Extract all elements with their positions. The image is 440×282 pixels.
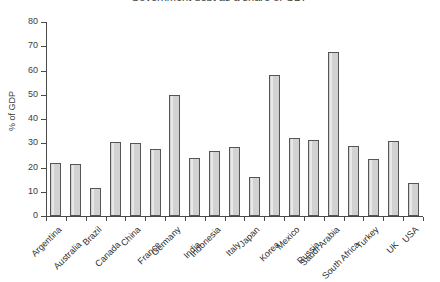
bar (388, 141, 399, 216)
y-axis-tick (41, 119, 46, 120)
x-axis-tick (66, 217, 67, 221)
bar (368, 159, 379, 216)
bar (308, 140, 319, 216)
bar (50, 163, 61, 216)
x-axis-tick (185, 217, 186, 221)
y-axis-tick-label: 50 (12, 90, 38, 99)
x-axis-tick (383, 217, 384, 221)
x-axis-tick (264, 217, 265, 221)
x-axis-tick (423, 217, 424, 221)
y-axis-tick-label: 30 (12, 138, 38, 147)
bar (70, 164, 81, 216)
bar (348, 146, 359, 216)
x-axis-tick (304, 217, 305, 221)
x-axis-tick (344, 217, 345, 221)
y-axis-tick-label: 20 (12, 163, 38, 172)
x-axis-tick (205, 217, 206, 221)
x-axis-tick (324, 217, 325, 221)
y-axis-tick-label: 10 (12, 187, 38, 196)
y-axis-tick (41, 168, 46, 169)
bar (150, 149, 161, 216)
x-axis-tick (284, 217, 285, 221)
bar (90, 188, 101, 216)
y-axis-tick-label: 80 (12, 17, 38, 26)
chart-container: Government debt as a share of GDP % of G… (0, 0, 440, 282)
bar (408, 183, 419, 216)
x-axis-line (46, 216, 423, 217)
x-axis-tick (106, 217, 107, 221)
y-axis-tick (41, 143, 46, 144)
y-axis-tick (41, 22, 46, 23)
chart-title: Government debt as a share of GDP (0, 0, 440, 3)
y-axis-tick (41, 46, 46, 47)
bar (269, 75, 280, 216)
bar (169, 95, 180, 216)
y-axis-tick (41, 95, 46, 96)
y-axis-tick-label: 70 (12, 41, 38, 50)
x-axis-tick (145, 217, 146, 221)
x-axis-tick (46, 217, 47, 221)
y-axis-tick-label: 60 (12, 66, 38, 75)
y-axis-tick (41, 192, 46, 193)
y-axis-tick (41, 71, 46, 72)
bar (229, 147, 240, 216)
x-axis-tick (403, 217, 404, 221)
bar (328, 52, 339, 216)
x-axis-tick (244, 217, 245, 221)
x-axis-tick (165, 217, 166, 221)
x-axis-tick (86, 217, 87, 221)
y-axis-tick-label: 40 (12, 114, 38, 123)
y-axis-tick-label: 0 (12, 211, 38, 220)
bar (249, 177, 260, 216)
bar (110, 142, 121, 216)
x-axis-tick (125, 217, 126, 221)
bar (130, 143, 141, 216)
bar (189, 158, 200, 216)
bar (289, 138, 300, 216)
x-axis-tick (363, 217, 364, 221)
x-axis-tick (225, 217, 226, 221)
y-axis-labels: 01020304050607080 (6, 0, 38, 282)
bar (209, 151, 220, 216)
